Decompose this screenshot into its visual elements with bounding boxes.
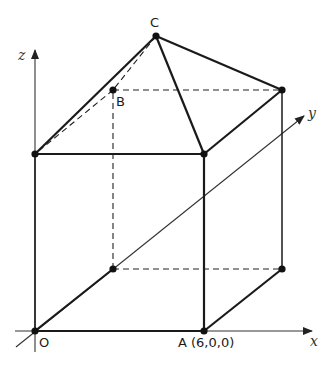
label-A: A (6,0,0): [178, 336, 234, 349]
point-C: [152, 32, 159, 39]
label-z-axis: z: [18, 48, 25, 62]
label-B: B: [116, 95, 125, 108]
point-O: [31, 327, 38, 334]
label-C: C: [150, 16, 159, 29]
label-O: O: [39, 336, 49, 349]
label-x-axis: x: [310, 334, 318, 348]
diagram-canvas: [0, 0, 333, 366]
point-A: [200, 327, 207, 334]
diagram: C B O A (6,0,0) x y z: [0, 0, 333, 366]
vertices: [31, 32, 285, 334]
vertical-edges-thin: [35, 90, 282, 331]
axes: [15, 50, 312, 352]
point-B: [109, 86, 116, 93]
visible-edges: [35, 36, 282, 331]
hidden-edges: [35, 36, 282, 269]
label-y-axis: y: [308, 106, 316, 120]
